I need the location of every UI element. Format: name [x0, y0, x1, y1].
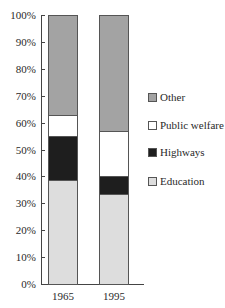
legend-item: Highways [148, 146, 205, 158]
legend-item: Public welfare [148, 119, 224, 131]
y-tick [41, 150, 45, 151]
legend-swatch [148, 177, 157, 186]
legend-label: Highways [160, 146, 205, 158]
legend-swatch [148, 93, 157, 102]
legend-item: Education [148, 175, 205, 187]
bar-1995 [99, 15, 129, 284]
y-tick-label: 70% [16, 90, 36, 102]
y-tick [41, 69, 45, 70]
y-tick-label: 10% [16, 251, 36, 263]
bar-segment-public-welfare [48, 115, 78, 138]
bar-segment-education [99, 194, 129, 285]
x-tick-label: 1965 [43, 290, 83, 302]
y-tick [41, 15, 45, 16]
y-tick-label: 20% [16, 224, 36, 236]
y-tick-label: 60% [16, 117, 36, 129]
bar-segment-highways [99, 176, 129, 194]
y-tick-label: 0% [21, 278, 36, 290]
y-tick [41, 42, 45, 43]
y-tick [41, 257, 45, 258]
legend-label: Education [160, 175, 205, 187]
y-tick [41, 230, 45, 231]
bar-1965 [48, 15, 78, 284]
legend-item: Other [148, 91, 185, 103]
y-tick [41, 123, 45, 124]
x-tick-label: 1995 [94, 290, 134, 302]
y-tick-label: 30% [16, 197, 36, 209]
bar-segment-other [99, 15, 129, 132]
legend-label: Public welfare [160, 119, 224, 131]
y-tick [41, 203, 45, 204]
y-tick-label: 80% [16, 63, 36, 75]
legend-swatch [148, 148, 157, 157]
y-tick-label: 50% [16, 144, 36, 156]
y-tick-label: 100% [10, 9, 36, 21]
bar-segment-public-welfare [99, 131, 129, 178]
y-tick [41, 96, 45, 97]
bar-segment-other [48, 15, 78, 116]
y-tick-label: 90% [16, 36, 36, 48]
legend-swatch [148, 121, 157, 130]
y-tick-label: 40% [16, 170, 36, 182]
bar-segment-highways [48, 136, 78, 181]
bar-segment-education [48, 180, 78, 285]
y-tick [41, 284, 45, 285]
y-tick [41, 176, 45, 177]
stacked-bar-chart: 0%10%20%30%40%50%60%70%80%90%100% 196519… [0, 0, 225, 308]
legend-label: Other [160, 91, 185, 103]
